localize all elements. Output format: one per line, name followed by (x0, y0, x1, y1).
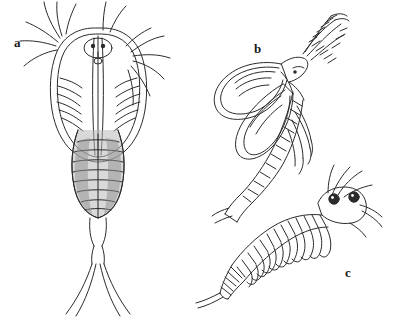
panel-label-b: b (254, 42, 261, 55)
specimen-a-tadpole-shrimp (0, 0, 210, 321)
specimen-c-drawing (210, 165, 405, 305)
panel-label-a: a (14, 36, 21, 49)
illustration-plate: a b c (0, 0, 405, 321)
specimen-c-fairy-shrimp (210, 165, 405, 305)
panel-label-c: c (345, 266, 351, 279)
specimen-a-drawing (0, 0, 210, 321)
